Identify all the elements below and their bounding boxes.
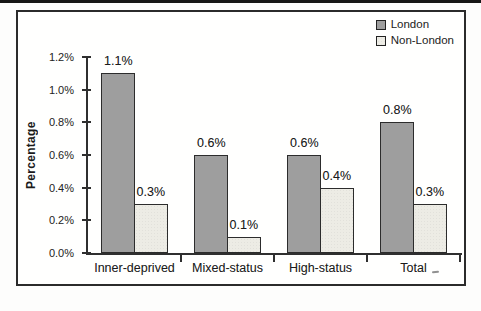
scan-edge-artifact — [0, 0, 481, 3]
bar-group-total: 0.8%0.3% — [367, 57, 460, 253]
legend-label-non-london: Non-London — [391, 34, 454, 47]
bar-london-total — [380, 122, 414, 253]
bar-value-label: 0.8% — [383, 103, 412, 117]
bar-value-label: 0.3% — [137, 185, 166, 199]
legend-swatch-london — [376, 20, 386, 30]
bar-value-label: 1.1% — [104, 54, 133, 68]
x-category-label-mixed-status: Mixed-status — [181, 261, 274, 275]
y-tick-label: 1.2% — [49, 50, 74, 64]
bar-unit-non-london-inner-deprived: 0.3% — [134, 204, 168, 253]
y-tick-label: 0.4% — [49, 181, 74, 195]
y-tick-label: 1.0% — [49, 83, 74, 97]
bar-london-mixed-status — [194, 155, 228, 253]
y-axis-labels: 0.0%0.2%0.4%0.6%0.8%1.0%1.2% — [36, 57, 80, 253]
scanned-chart-page: LondonNon-London Percentage 0.0%0.2%0.4%… — [0, 0, 481, 311]
bar-value-label: 0.6% — [197, 136, 226, 150]
bar-non-london-inner-deprived — [134, 204, 168, 253]
bar-value-label: 0.3% — [416, 185, 445, 199]
bar-value-label: 0.1% — [230, 218, 259, 232]
bar-unit-non-london-mixed-status: 0.1% — [227, 237, 261, 253]
y-tick-label: 0.6% — [49, 148, 74, 162]
bar-london-high-status — [287, 155, 321, 253]
bar-non-london-high-status — [320, 188, 354, 253]
legend-label-london: London — [391, 18, 429, 31]
bar-unit-london-high-status: 0.6% — [287, 155, 321, 253]
bar-group-high-status: 0.6%0.4% — [274, 57, 367, 253]
legend-item-non-london: Non-London — [376, 34, 454, 47]
bar-unit-non-london-total: 0.3% — [413, 204, 447, 253]
bar-unit-london-inner-deprived: 1.1% — [101, 73, 135, 253]
bar-unit-non-london-high-status: 0.4% — [320, 188, 354, 253]
bar-value-label: 0.4% — [323, 169, 352, 183]
y-tick-label: 0.2% — [49, 213, 74, 227]
bar-value-label: 0.6% — [290, 136, 319, 150]
x-axis-category-labels: Inner-deprivedMixed-statusHigh-statusTot… — [88, 261, 460, 275]
chart-frame: LondonNon-London Percentage 0.0%0.2%0.4%… — [16, 10, 466, 286]
bar-non-london-total — [413, 204, 447, 253]
legend-swatch-non-london — [376, 36, 386, 46]
x-category-label-total: Total — [367, 261, 460, 275]
bar-unit-london-mixed-status: 0.6% — [194, 155, 228, 253]
y-tick-label: 0.8% — [49, 115, 74, 129]
legend-item-london: London — [376, 18, 454, 31]
bar-group-mixed-status: 0.6%0.1% — [181, 57, 274, 253]
x-category-label-inner-deprived: Inner-deprived — [88, 261, 181, 275]
bar-group-inner-deprived: 1.1%0.3% — [88, 57, 181, 253]
y-tick-label: 0.0% — [49, 246, 74, 260]
bar-non-london-mixed-status — [227, 237, 261, 253]
chart-legend: LondonNon-London — [376, 18, 454, 50]
plot-area: 1.1%0.3%0.6%0.1%0.6%0.4%0.8%0.3% — [88, 57, 460, 253]
bar-unit-london-total: 0.8% — [380, 122, 414, 253]
bar-london-inner-deprived — [101, 73, 135, 253]
x-category-label-high-status: High-status — [274, 261, 367, 275]
